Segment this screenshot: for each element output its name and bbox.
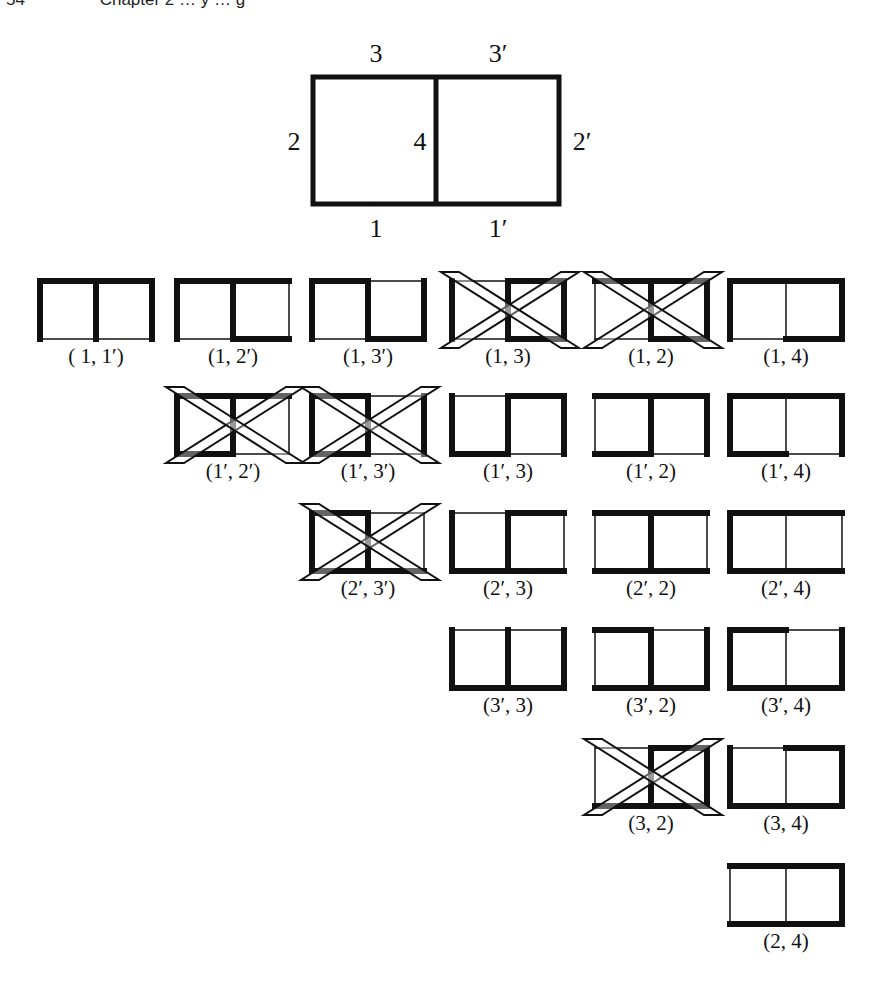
pair-diagram: (1′, 3) xyxy=(452,396,564,483)
pair-label: (2, 4) xyxy=(763,929,809,953)
pair-label: (1′, 3′) xyxy=(341,459,396,483)
pair-label: (3′, 4) xyxy=(761,693,811,717)
edge-label-2: 2 xyxy=(288,127,301,156)
pair-diagram: (3′, 2) xyxy=(595,630,707,717)
pair-diagram: (1′, 2) xyxy=(595,396,707,483)
pair-diagram: (3′, 4) xyxy=(730,630,842,717)
edge-pair-diagram: 3 3′ 2 4 2′ 1 1′ ( 1, 1′)(1, 2′)(1, 3′)(… xyxy=(0,0,887,994)
edge-label-1-prime: 1′ xyxy=(489,214,508,243)
pair-diagram: (2′, 2) xyxy=(595,513,707,600)
pair-label: (1′, 2) xyxy=(626,459,676,483)
pair-diagram: (1′, 4) xyxy=(730,396,842,483)
pair-label: (1′, 3) xyxy=(483,459,533,483)
pair-label: (1, 2) xyxy=(628,344,674,368)
pair-diagram: ( 1, 1′) xyxy=(40,281,152,368)
pair-label: (3′, 3) xyxy=(483,693,533,717)
pair-label: (1, 2′) xyxy=(208,344,258,368)
main-figure: 3 3′ 2 4 2′ 1 1′ xyxy=(288,39,592,243)
pair-diagram: (1, 3′) xyxy=(312,281,424,368)
pair-diagram: (3′, 3) xyxy=(452,630,564,717)
pair-label: (2′, 4) xyxy=(761,576,811,600)
pair-label: (3, 4) xyxy=(763,811,809,835)
pair-diagram: (2′, 3′) xyxy=(301,504,439,600)
pair-label: (3′, 2) xyxy=(626,693,676,717)
pair-diagram: (3, 4) xyxy=(730,748,842,835)
edge-label-2-prime: 2′ xyxy=(573,127,592,156)
pair-label: (1, 4) xyxy=(763,344,809,368)
edge-label-3: 3 xyxy=(370,39,383,68)
pair-diagram: (2′, 4) xyxy=(730,513,842,600)
pair-diagram: (1′, 2′) xyxy=(166,387,304,483)
pair-diagram: (1, 4) xyxy=(730,281,842,368)
pair-label: (1′, 4) xyxy=(761,459,811,483)
pair-diagram: (1, 3) xyxy=(441,272,579,368)
pair-label: (1, 3′) xyxy=(343,344,393,368)
pair-label: (1, 3) xyxy=(485,344,531,368)
pair-label: ( 1, 1′) xyxy=(68,344,123,368)
edge-label-3-prime: 3′ xyxy=(489,39,508,68)
pair-label: (2′, 3) xyxy=(483,576,533,600)
pair-diagram: (3, 2) xyxy=(584,739,722,835)
edge-label-4: 4 xyxy=(414,127,427,156)
pair-diagram: (1, 2′) xyxy=(177,281,289,368)
pair-diagram: (1, 2) xyxy=(584,272,722,368)
pair-diagram: (1′, 3′) xyxy=(301,387,439,483)
pair-label: (3, 2) xyxy=(628,811,674,835)
pair-label: (2′, 2) xyxy=(626,576,676,600)
pair-diagram: (2′, 3) xyxy=(452,513,564,600)
pair-label: (1′, 2′) xyxy=(206,459,261,483)
pair-diagram: (2, 4) xyxy=(730,866,842,953)
pair-grid: ( 1, 1′)(1, 2′)(1, 3′)(1, 3)(1, 2)(1, 4)… xyxy=(40,272,842,953)
edge-label-1: 1 xyxy=(370,214,383,243)
pair-label: (2′, 3′) xyxy=(341,576,396,600)
